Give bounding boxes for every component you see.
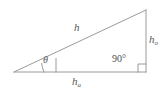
opposite-side-label: ho: [149, 34, 158, 47]
opposite-subscript: o: [155, 39, 159, 47]
hypotenuse-label: h: [74, 22, 80, 35]
right-angle-label: 90°: [112, 54, 126, 64]
triangle-diagram: h ho ha θ 90°: [0, 0, 168, 92]
right-angle-marker-icon: [138, 64, 146, 72]
hypotenuse-symbol: h: [74, 21, 80, 33]
adjacent-side-label: ha: [72, 76, 81, 89]
hypotenuse-side-line: [14, 10, 146, 72]
theta-angle-label: θ: [43, 55, 48, 65]
adjacent-subscript: a: [78, 81, 82, 89]
triangle-figure-svg: [0, 0, 168, 92]
